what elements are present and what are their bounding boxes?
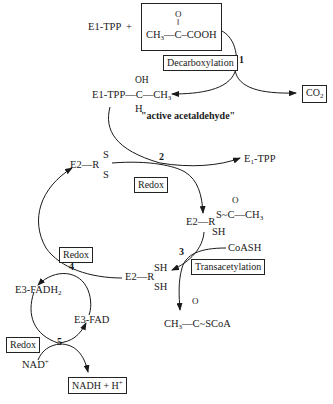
acetyl-lipoamide-sh: SH xyxy=(212,227,225,238)
lipoamide-reduced-sh-bottom: SH xyxy=(154,282,167,293)
product-e1-tpp: E1-TPP xyxy=(244,154,276,166)
label-redox-step2: Redox xyxy=(134,177,168,193)
acetyl-lipoamide-thioester: S~C—CH3 xyxy=(216,210,263,222)
lipoamide-reduced-sh-top: SH xyxy=(154,263,167,274)
product-co2: CO2 xyxy=(302,85,327,103)
label-redox-step5: Redox xyxy=(6,337,40,353)
lipoamide-reduced-prefix: E2—R xyxy=(125,272,154,283)
step-4-number: 4 xyxy=(69,262,74,272)
product-acetyl-coa: CH3—C~SCoA xyxy=(164,319,231,331)
step-1-number: 1 xyxy=(239,55,244,65)
label-redox-step4: Redox xyxy=(59,247,93,263)
pyruvate-formula: CH3—C–COOH xyxy=(146,30,217,42)
double-bond: ‖ xyxy=(177,19,179,27)
step-5-number: 5 xyxy=(57,337,62,347)
plus-sign: + xyxy=(126,22,132,33)
arrow-coash-in xyxy=(179,248,226,310)
arrow-step1-to-co2 xyxy=(235,70,296,93)
e3-fadh2: E3-FADH2 xyxy=(15,285,61,297)
cofactor-coash: CoASH xyxy=(228,243,261,254)
arrow-step5-to-fad xyxy=(58,323,86,343)
step-2-number: 2 xyxy=(159,152,164,162)
arrow-fadh2-to-step5 xyxy=(31,292,58,343)
hydroxyethyl-oh: OH xyxy=(135,76,149,86)
pyruvate-box: O ‖ CH3—C–COOH xyxy=(141,3,222,51)
label-decarboxylation: Decarboxylation xyxy=(163,55,238,71)
e3-fad: E3-FAD xyxy=(74,315,109,326)
product-nadh: NADH + H+ xyxy=(68,377,127,394)
hydroxyethyl-tpp: E1-TPP—C—CH3 xyxy=(92,90,171,102)
acetyl-lipoamide-prefix: E2—R xyxy=(186,217,215,228)
step-3-number: 3 xyxy=(179,247,184,257)
reactant-e1-tpp: E1-TPP xyxy=(88,22,121,33)
arrow-fad-loop xyxy=(88,290,91,315)
acetyl-lipoamide-oxygen: O xyxy=(232,196,239,205)
lipoamide-s-bottom: S xyxy=(103,170,109,181)
label-transacetylation: Transacetylation xyxy=(191,259,265,275)
acetyl-coa-oxygen: O xyxy=(192,297,199,306)
active-acetaldehyde-note: "active acetaldehyde" xyxy=(141,111,235,121)
cofactor-nad: NAD+ xyxy=(22,359,49,371)
lipoamide-oxidized: E2—R xyxy=(70,160,99,171)
lipoamide-s-top: S xyxy=(103,150,109,161)
